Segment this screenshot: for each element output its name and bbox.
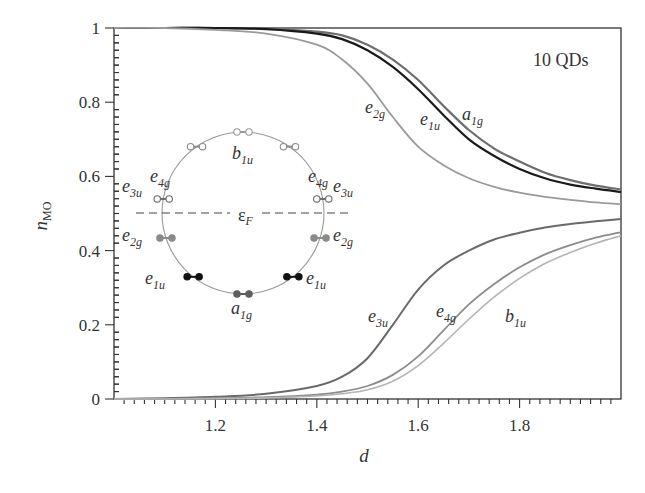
x-axis-label: d bbox=[359, 445, 369, 466]
curve-label-e1u: e1u bbox=[420, 109, 440, 133]
x-tick-label: 1.4 bbox=[306, 416, 328, 435]
orbital-pair-e2g bbox=[157, 235, 175, 241]
curve-label-e3u: e3u bbox=[368, 306, 388, 330]
orbital-pair-e4g bbox=[280, 143, 298, 149]
inset-label-e3u: e3u bbox=[333, 176, 353, 200]
orbital-pair-e4g bbox=[187, 143, 205, 149]
y-tick-label: 0.2 bbox=[79, 316, 100, 335]
y-tick-label: 0.6 bbox=[79, 167, 100, 186]
inset-label-e2g: e2g bbox=[122, 225, 142, 249]
annotation-10-qds: 10 QDs bbox=[533, 50, 589, 70]
y-tick-label: 0.8 bbox=[79, 93, 100, 112]
inset-label-e1u: e1u bbox=[145, 268, 165, 292]
y-axis-label-main: n bbox=[30, 221, 51, 231]
curve-label-e4g: e4g bbox=[436, 301, 456, 325]
orbital-pair-e1u bbox=[284, 274, 302, 280]
chart: 1.21.41.61.8 00.20.40.60.81 a1ge1ue2ge3u… bbox=[0, 0, 645, 493]
inset-label-e1u: e1u bbox=[306, 268, 326, 292]
orbital-pair-e1u bbox=[184, 274, 202, 280]
x-tick-label: 1.8 bbox=[509, 416, 530, 435]
inset-label-b1u: b1u bbox=[232, 143, 253, 167]
fermi-level-label: εF bbox=[238, 205, 254, 228]
x-tick-label: 1.2 bbox=[205, 416, 226, 435]
curve-label-a1g: a1g bbox=[462, 104, 483, 128]
y-tick-label: 0 bbox=[92, 390, 101, 409]
inset-label-e4g: e4g bbox=[150, 166, 170, 190]
curve-label-e2g: e2g bbox=[365, 97, 385, 121]
inset-label-e4g: e4g bbox=[308, 166, 328, 190]
orbital-pair-a1g bbox=[234, 291, 252, 297]
inset-energy-diagram: εFb1ue4ge4ge3ue3ue2ge2ge1ue1ua1g bbox=[122, 129, 353, 322]
orbital-pair-e2g bbox=[311, 235, 329, 241]
curve-labels: a1ge1ue2ge3ue4gb1u bbox=[365, 97, 526, 330]
y-axis-label: nMO bbox=[30, 201, 54, 230]
curve-label-b1u: b1u bbox=[505, 306, 526, 330]
y-tick-label: 0.4 bbox=[79, 242, 101, 261]
x-tick-label: 1.6 bbox=[408, 416, 429, 435]
inset-label-e2g: e2g bbox=[333, 225, 353, 249]
inset-label-e3u: e3u bbox=[122, 176, 142, 200]
x-axis-ticks: 1.21.41.61.8 bbox=[124, 399, 611, 435]
orbital-pair-b1u bbox=[234, 129, 252, 135]
svg-text:nMO: nMO bbox=[30, 201, 54, 230]
inset-label-a1g: a1g bbox=[231, 298, 252, 322]
y-tick-label: 1 bbox=[92, 19, 101, 38]
y-axis-label-sub: MO bbox=[40, 201, 54, 221]
y-axis-ticks: 00.20.40.60.81 bbox=[79, 19, 119, 409]
